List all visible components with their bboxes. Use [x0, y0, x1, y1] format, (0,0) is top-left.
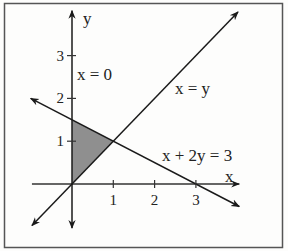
- y-tick-label: 3: [57, 48, 65, 64]
- x-tick-label: 3: [192, 192, 200, 208]
- diagram-canvas: 123 123 x y x = 0 x = y x + 2y = 3: [0, 0, 288, 251]
- diagram-stage: 123 123 x y x = 0 x = y x + 2y = 3: [0, 0, 288, 251]
- label-x-plus-2y-eq-3: x + 2y = 3: [162, 146, 232, 165]
- label-x-eq-0: x = 0: [77, 65, 112, 84]
- line-x-eq-y: [32, 12, 238, 226]
- y-tick-label: 1: [57, 133, 65, 149]
- x-axis-label: x: [225, 167, 234, 186]
- x-tick-label: 2: [151, 192, 159, 208]
- label-x-eq-y: x = y: [175, 79, 211, 98]
- y-axis-label: y: [83, 9, 92, 28]
- y-tick-label: 2: [57, 90, 65, 106]
- x-tick-label: 1: [110, 192, 118, 208]
- shaded-feasible-region: [72, 120, 113, 184]
